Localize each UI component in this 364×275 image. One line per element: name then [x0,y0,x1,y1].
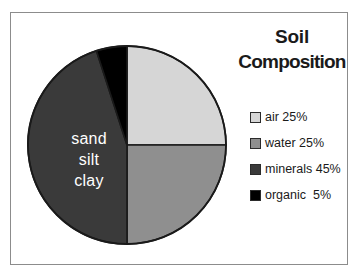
pie-chart [27,45,227,245]
legend-item-organic[interactable]: organic 5% [250,182,348,208]
pie-slice-air[interactable] [127,46,226,145]
legend-item-minerals[interactable]: minerals 45% [250,156,348,182]
pie-slice-water[interactable] [127,145,226,244]
chart-title-line-2: Composition [236,49,348,74]
legend-swatch-icon-minerals [250,164,261,175]
chart-title-line-1: Soil [236,24,348,49]
slide-canvas: sand silt clay Soil Composition air 25% … [0,0,364,275]
legend-item-air[interactable]: air 25% [250,104,348,130]
legend-swatch-icon-water [250,138,261,149]
legend-swatch-icon-organic [250,190,261,201]
legend-swatch-icon-air [250,112,261,123]
chart-title: Soil Composition [236,24,348,74]
legend-label-organic: organic 5% [265,189,331,202]
pie-chart-svg [27,45,227,245]
legend-item-water[interactable]: water 25% [250,130,348,156]
legend-label-water: water 25% [265,137,324,150]
legend-label-minerals: minerals 45% [265,163,341,176]
legend-label-air: air 25% [265,111,307,124]
chart-legend: air 25% water 25% minerals 45% organic 5… [250,104,348,208]
